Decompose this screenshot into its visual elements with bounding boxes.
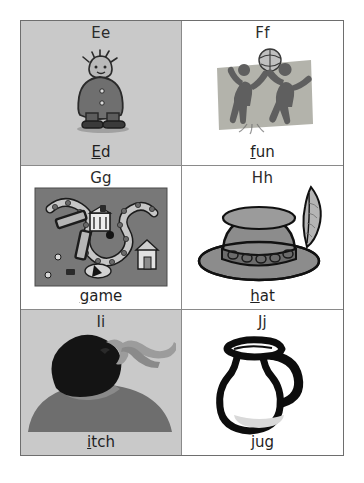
children-playing-ball-illustration [184,42,341,143]
alphabet-card-grid: Ee [20,20,344,456]
card-cell-ee[interactable]: Ee [21,21,182,166]
card-word-ed: Ed [91,143,110,163]
card-word-ed-rest: d [101,143,111,161]
card-word-fun-rest: un [256,143,275,161]
card-cell-hh[interactable]: Hh [182,166,343,311]
card-letter-ii: Ii [96,313,105,331]
card-word-ed-underlined: E [91,143,100,161]
card-letter-hh: Hh [252,169,273,187]
card-word-jug: jug [251,433,274,453]
card-word-game-rest: ame [89,287,122,305]
card-word-hat-rest: at [260,287,275,305]
card-letter-ff: Ff [255,24,270,42]
card-cell-ii[interactable]: Ii itch [21,310,182,455]
board-game-illustration [23,187,179,288]
card-word-game: game [80,287,123,307]
card-letter-ee: Ee [91,24,110,42]
page-root: Ee [0,0,364,483]
card-word-jug-rest: ug [255,433,274,451]
card-cell-ff[interactable]: Ff [182,21,343,166]
card-word-fun: fun [250,143,274,163]
card-word-game-underlined: g [80,287,90,305]
card-cell-gg[interactable]: Gg [21,166,182,311]
hat-with-feather-illustration [184,187,341,288]
card-letter-gg: Gg [90,169,112,187]
card-word-hat-underlined: h [250,287,260,305]
card-word-itch: itch [87,433,115,453]
card-word-itch-rest: tch [91,433,115,451]
boy-character-illustration [23,42,179,143]
card-cell-jj[interactable]: Jj jug [182,310,343,455]
person-scratching-head-silhouette [23,331,179,433]
card-word-hat: hat [250,287,275,307]
jug-pitcher-illustration [184,331,341,433]
